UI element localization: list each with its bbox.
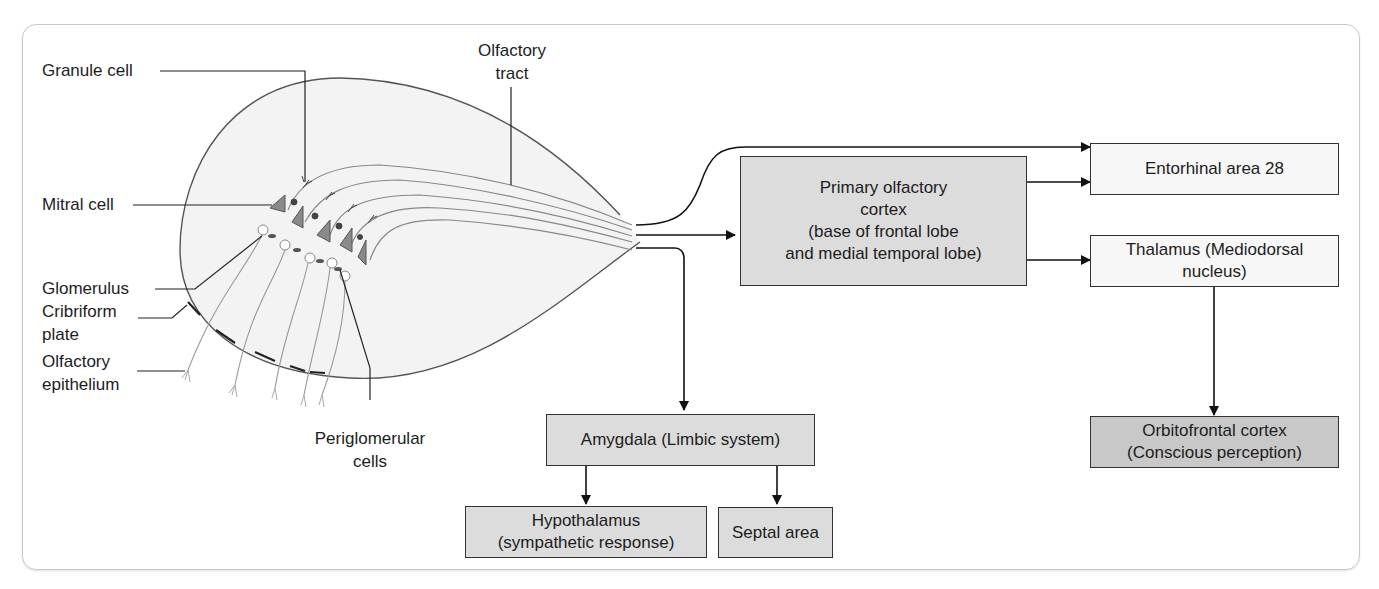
- box-entorhinal-area: Entorhinal area 28: [1090, 143, 1339, 195]
- label-line: Periglomerular: [300, 427, 440, 450]
- box-thalamus: Thalamus (Mediodorsal nucleus): [1090, 235, 1339, 287]
- label-olfactory-epithelium: Olfactory epithelium: [42, 350, 120, 396]
- label-line: Cribriform: [42, 300, 117, 323]
- label-granule-cell: Granule cell: [42, 60, 133, 81]
- box-line: nucleus): [1126, 261, 1304, 283]
- box-line: Entorhinal area 28: [1145, 158, 1284, 180]
- box-line: (Conscious perception): [1127, 442, 1302, 464]
- box-septal-area: Septal area: [718, 507, 833, 558]
- label-cribriform-plate: Cribriform plate: [42, 300, 117, 346]
- label-line: Olfactory: [42, 350, 120, 373]
- box-line: Amygdala (Limbic system): [581, 429, 780, 451]
- box-line: (sympathetic response): [498, 532, 675, 554]
- epithelium-cells: [182, 370, 324, 407]
- box-line: Thalamus (Mediodorsal: [1126, 239, 1304, 261]
- box-orbitofrontal-cortex: Orbitofrontal cortex (Conscious percepti…: [1090, 416, 1339, 468]
- box-line: (base of frontal lobe: [785, 221, 982, 243]
- label-periglomerular-cells: Periglomerular cells: [300, 427, 440, 473]
- box-line: Septal area: [732, 522, 819, 544]
- label-line: Olfactory: [470, 39, 554, 62]
- box-line: Hypothalamus: [498, 510, 675, 532]
- label-line: cells: [300, 450, 440, 473]
- label-line: plate: [42, 323, 117, 346]
- box-hypothalamus: Hypothalamus (sympathetic response): [465, 506, 707, 558]
- olfactory-diagram-art: [0, 0, 1379, 589]
- box-line: cortex: [785, 199, 982, 221]
- box-primary-olfactory-cortex: Primary olfactory cortex (base of fronta…: [740, 156, 1027, 286]
- box-amygdala: Amygdala (Limbic system): [546, 414, 815, 466]
- label-line: epithelium: [42, 373, 120, 396]
- box-line: Orbitofrontal cortex: [1127, 420, 1302, 442]
- label-line: tract: [470, 62, 554, 85]
- label-glomerulus: Glomerulus: [42, 278, 129, 299]
- box-line: and medial temporal lobe): [785, 243, 982, 265]
- box-line: Primary olfactory: [785, 177, 982, 199]
- label-olfactory-tract: Olfactory tract: [470, 39, 554, 85]
- label-mitral-cell: Mitral cell: [42, 194, 114, 215]
